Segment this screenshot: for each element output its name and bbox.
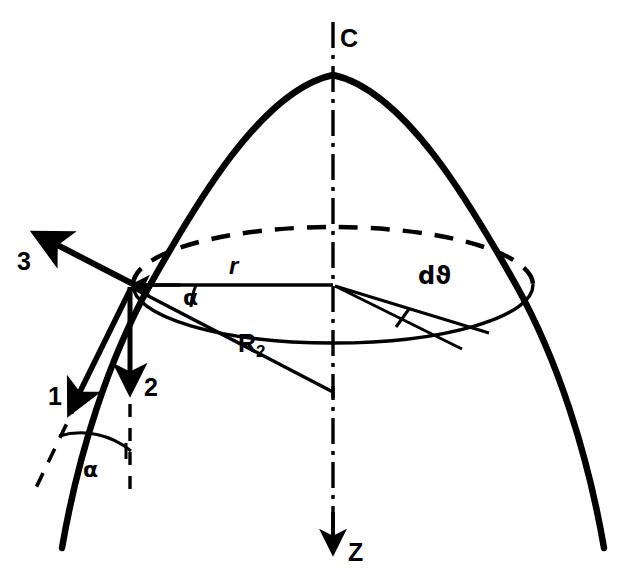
radius-of-curvature-letter: R <box>238 329 256 357</box>
radius-label-r: r <box>229 254 238 278</box>
figure-canvas: C Z 3 1 2 r α α dϑ R2 <box>0 0 635 584</box>
angle-alpha-lower-arc <box>59 433 131 459</box>
vector-3-normal <box>36 234 133 284</box>
vector-label-1: 1 <box>48 384 62 409</box>
vector-label-2: 2 <box>144 375 158 400</box>
vector-label-3: 3 <box>17 249 31 274</box>
tangent-extension-dashed <box>34 400 78 492</box>
diagram-vector-graphics <box>0 0 635 584</box>
angle-label-alpha-upper: α <box>183 287 198 309</box>
angle-label-alpha-lower: α <box>83 459 98 481</box>
angle-increment-label-dtheta: dϑ <box>418 264 451 288</box>
radius-of-curvature-subscript: 2 <box>256 342 265 361</box>
axis-label-z: Z <box>348 540 363 565</box>
axis-label-c: C <box>340 26 358 51</box>
radius-of-curvature-label: R2 <box>238 331 266 360</box>
